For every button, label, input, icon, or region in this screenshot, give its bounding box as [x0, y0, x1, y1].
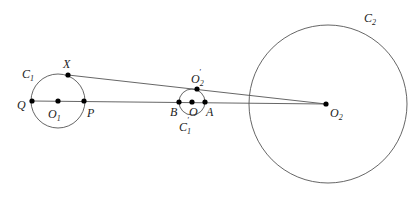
- label-c2: C2: [364, 11, 376, 27]
- point-p: [81, 98, 86, 103]
- label-c1-prime: C1: [179, 120, 191, 136]
- label-c1-prime-mark: ′: [187, 116, 189, 125]
- label-a: A: [205, 105, 214, 119]
- point-o2: [323, 101, 328, 106]
- label-o2: O2: [330, 106, 343, 122]
- point-o: [189, 99, 194, 104]
- point-b: [176, 99, 181, 104]
- point-q: [29, 98, 34, 103]
- label-x: X: [62, 57, 71, 71]
- label-p: P: [86, 106, 95, 120]
- label-c1: C1: [22, 67, 34, 83]
- label-q: Q: [17, 98, 26, 112]
- label-o: O: [189, 105, 198, 119]
- label-o1: O1: [48, 107, 61, 123]
- point-a: [202, 99, 207, 104]
- label-o2-prime-mark: ′: [199, 68, 201, 77]
- point-x: [65, 72, 70, 77]
- label-b: B: [170, 105, 178, 119]
- point-o1: [55, 98, 60, 103]
- geometry-diagram: C1 X Q O1 P O2 ′ B O A C1 ′ C2 O2: [0, 0, 420, 198]
- label-o2-prime: O2: [191, 72, 204, 88]
